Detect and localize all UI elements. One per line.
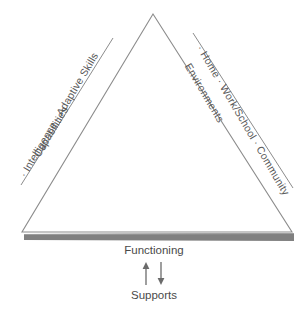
functioning-label: Functioning [0,244,308,256]
arrow-up-icon [143,262,150,285]
diagram-canvas: Capabilities · Intelligence · Adaptive S… [0,0,308,320]
arrow-pair [143,262,165,285]
supports-label: Supports [0,289,308,301]
arrow-down-icon [158,262,165,285]
